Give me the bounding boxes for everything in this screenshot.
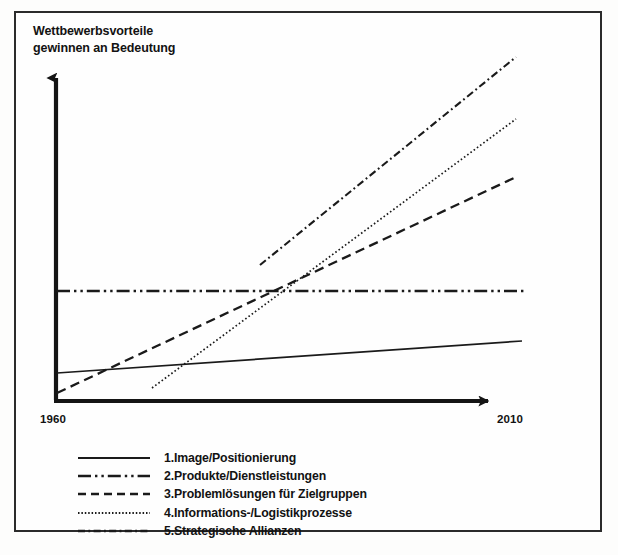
- legend-swatch-dash-dot-dot-icon: [78, 469, 150, 483]
- legend-swatch-dashed-icon: [78, 487, 150, 501]
- legend-item-4: 4.Informations-/Logistikprozesse: [78, 504, 498, 522]
- legend-label-5: 5.Strategische Allianzen: [164, 524, 301, 538]
- legend-item-1: 1.Image/Positionierung: [78, 449, 498, 467]
- legend-item-3: 3.Problemlösungen für Zielgruppen: [78, 485, 498, 503]
- legend-item-5: 5.Strategische Allianzen: [78, 522, 498, 540]
- chart-axis-title: Wettbewerbsvorteile gewinnen an Bedeutun…: [33, 23, 313, 56]
- axis-title-line-1: Wettbewerbsvorteile: [33, 23, 313, 40]
- legend-label-2: 2.Produkte/Dienstleistungen: [164, 469, 326, 483]
- legend-label-3: 3.Problemlösungen für Zielgruppen: [164, 487, 367, 501]
- figure-root: Wettbewerbsvorteile gewinnen an Bedeutun…: [0, 0, 618, 555]
- legend-swatch-dotted-icon: [78, 506, 150, 520]
- series-line-4-informations-logistikprozesse: [152, 119, 516, 388]
- legend-swatch-dash-dot-icon: [78, 524, 150, 538]
- x-axis-tick-label-end: 2010: [497, 413, 523, 425]
- series-line-3-problemloesungen-zielgruppen: [57, 178, 514, 393]
- legend-item-2: 2.Produkte/Dienstleistungen: [78, 467, 498, 485]
- series-line-1-image-positionierung: [57, 341, 522, 373]
- axis-title-line-2: gewinnen an Bedeutung: [33, 40, 313, 57]
- chart-legend: 1.Image/Positionierung 2.Produkte/Dienst…: [78, 449, 498, 540]
- series-line-5-strategische-allianzen: [260, 57, 516, 265]
- legend-label-4: 4.Informations-/Logistikprozesse: [164, 506, 352, 520]
- x-axis-tick-label-start: 1960: [40, 413, 66, 425]
- legend-label-1: 1.Image/Positionierung: [164, 451, 296, 465]
- legend-swatch-solid-icon: [78, 451, 150, 465]
